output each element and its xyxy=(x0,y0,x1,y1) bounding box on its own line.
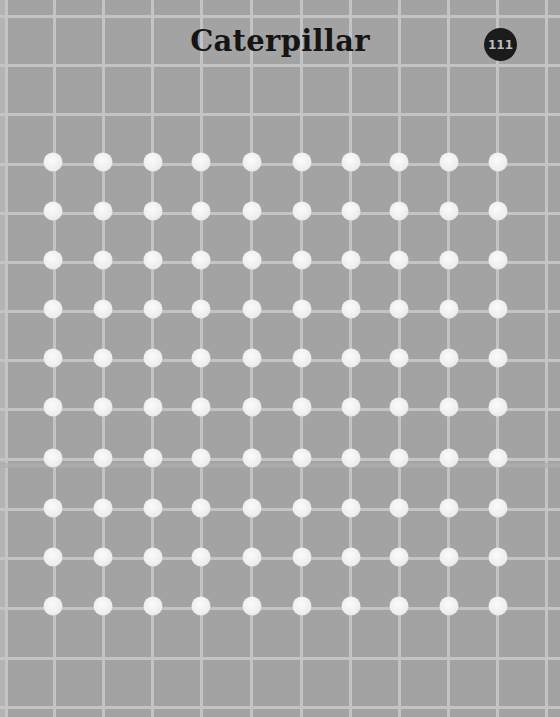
dot[interactable] xyxy=(94,499,113,518)
dot[interactable] xyxy=(440,153,459,172)
dot[interactable] xyxy=(390,548,409,567)
dot[interactable] xyxy=(144,153,163,172)
dot[interactable] xyxy=(144,251,163,270)
dot[interactable] xyxy=(192,300,211,319)
dot[interactable] xyxy=(390,251,409,270)
dot[interactable] xyxy=(440,202,459,221)
dot[interactable] xyxy=(44,153,63,172)
dot[interactable] xyxy=(243,597,262,616)
dot[interactable] xyxy=(243,398,262,417)
dot[interactable] xyxy=(440,300,459,319)
dot[interactable] xyxy=(94,449,113,468)
dot[interactable] xyxy=(390,153,409,172)
dot[interactable] xyxy=(94,202,113,221)
dot[interactable] xyxy=(390,349,409,368)
dot[interactable] xyxy=(293,153,312,172)
dot[interactable] xyxy=(293,548,312,567)
dot[interactable] xyxy=(192,499,211,518)
dot[interactable] xyxy=(342,398,361,417)
dot[interactable] xyxy=(342,449,361,468)
dot[interactable] xyxy=(144,548,163,567)
dot[interactable] xyxy=(144,398,163,417)
dot[interactable] xyxy=(440,499,459,518)
dot[interactable] xyxy=(489,597,508,616)
dot[interactable] xyxy=(489,349,508,368)
dot[interactable] xyxy=(489,202,508,221)
dot[interactable] xyxy=(390,449,409,468)
dot[interactable] xyxy=(293,202,312,221)
dot[interactable] xyxy=(144,449,163,468)
dot[interactable] xyxy=(144,597,163,616)
dot[interactable] xyxy=(293,349,312,368)
dot[interactable] xyxy=(94,548,113,567)
dot[interactable] xyxy=(440,449,459,468)
dot[interactable] xyxy=(390,499,409,518)
dot[interactable] xyxy=(192,398,211,417)
dot[interactable] xyxy=(44,202,63,221)
dot[interactable] xyxy=(243,202,262,221)
dot[interactable] xyxy=(440,548,459,567)
dot[interactable] xyxy=(489,499,508,518)
dot[interactable] xyxy=(44,398,63,417)
dot[interactable] xyxy=(44,349,63,368)
dot[interactable] xyxy=(94,597,113,616)
dot[interactable] xyxy=(94,251,113,270)
dot[interactable] xyxy=(192,548,211,567)
dot[interactable] xyxy=(144,300,163,319)
dot[interactable] xyxy=(293,449,312,468)
dot[interactable] xyxy=(94,153,113,172)
dot[interactable] xyxy=(192,153,211,172)
dot[interactable] xyxy=(342,300,361,319)
dot[interactable] xyxy=(489,548,508,567)
dot[interactable] xyxy=(342,202,361,221)
dot[interactable] xyxy=(44,597,63,616)
dot[interactable] xyxy=(342,251,361,270)
dot[interactable] xyxy=(342,597,361,616)
dot[interactable] xyxy=(390,597,409,616)
dot[interactable] xyxy=(489,300,508,319)
dot[interactable] xyxy=(243,548,262,567)
dot[interactable] xyxy=(44,300,63,319)
dot[interactable] xyxy=(342,349,361,368)
dot[interactable] xyxy=(94,398,113,417)
dot[interactable] xyxy=(440,597,459,616)
dot[interactable] xyxy=(243,499,262,518)
dot[interactable] xyxy=(44,449,63,468)
dot[interactable] xyxy=(44,251,63,270)
dot[interactable] xyxy=(293,251,312,270)
dot[interactable] xyxy=(192,349,211,368)
dot[interactable] xyxy=(440,349,459,368)
dot[interactable] xyxy=(342,548,361,567)
dot[interactable] xyxy=(390,300,409,319)
dot[interactable] xyxy=(390,398,409,417)
dot[interactable] xyxy=(243,300,262,319)
dot[interactable] xyxy=(293,597,312,616)
dot[interactable] xyxy=(192,251,211,270)
dot[interactable] xyxy=(94,349,113,368)
dot[interactable] xyxy=(342,499,361,518)
dot[interactable] xyxy=(192,597,211,616)
dot[interactable] xyxy=(144,202,163,221)
dot[interactable] xyxy=(44,548,63,567)
dot[interactable] xyxy=(192,202,211,221)
dot[interactable] xyxy=(144,349,163,368)
dot[interactable] xyxy=(192,449,211,468)
dot[interactable] xyxy=(293,499,312,518)
dot[interactable] xyxy=(243,153,262,172)
dot[interactable] xyxy=(390,202,409,221)
dot[interactable] xyxy=(44,499,63,518)
dot[interactable] xyxy=(489,251,508,270)
dot[interactable] xyxy=(440,398,459,417)
dot[interactable] xyxy=(293,398,312,417)
dot[interactable] xyxy=(489,153,508,172)
dot[interactable] xyxy=(293,300,312,319)
dot[interactable] xyxy=(243,449,262,468)
dot[interactable] xyxy=(489,398,508,417)
dot[interactable] xyxy=(243,349,262,368)
dot[interactable] xyxy=(243,251,262,270)
dot[interactable] xyxy=(440,251,459,270)
dot[interactable] xyxy=(144,499,163,518)
dot[interactable] xyxy=(94,300,113,319)
dot[interactable] xyxy=(342,153,361,172)
dot[interactable] xyxy=(489,449,508,468)
